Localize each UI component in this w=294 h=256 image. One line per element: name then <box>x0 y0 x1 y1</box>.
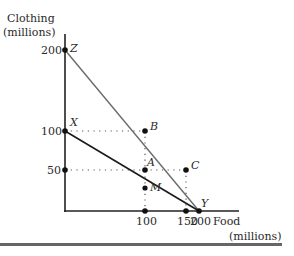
label-a: A <box>146 156 155 169</box>
label-z: Z <box>69 42 78 55</box>
y-tick-100: 100 <box>41 125 62 138</box>
tick-marker-100 <box>142 208 148 214</box>
point-m <box>142 185 147 190</box>
x-tick-100: 100 <box>136 215 157 228</box>
ppf-diagram: Clothing (millions) 200 100 50 100 150 2… <box>0 0 294 256</box>
line-zy <box>65 50 199 211</box>
point-x <box>62 128 68 134</box>
line-xy <box>65 131 199 211</box>
x-axis-title: Food <box>213 215 240 228</box>
tick-marker-150 <box>183 208 189 214</box>
point-b <box>142 128 148 134</box>
tick-marker-50 <box>62 167 68 173</box>
guide-lines <box>65 131 186 211</box>
y-tick-200: 200 <box>41 44 62 57</box>
label-b: B <box>149 120 158 133</box>
point-z <box>62 47 68 53</box>
y-axis-title: Clothing <box>7 12 55 25</box>
x-axis-unit: (millions) <box>229 230 281 243</box>
x-tick-200: 200 <box>190 215 211 228</box>
point-c <box>183 167 189 173</box>
label-x: X <box>69 116 79 129</box>
label-c: C <box>191 159 200 172</box>
y-axis-unit: (millions) <box>3 26 55 39</box>
y-tick-50: 50 <box>47 164 61 177</box>
bottom-rule <box>0 243 282 246</box>
label-m: M <box>149 181 162 194</box>
label-y: Y <box>201 197 210 210</box>
